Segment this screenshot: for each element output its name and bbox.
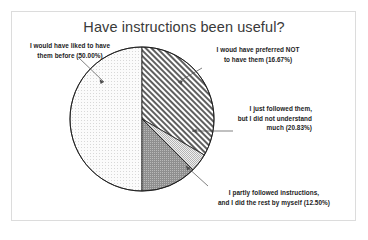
- pie-label-just-followed-not-understand: I just followed them, but I did not unde…: [222, 104, 312, 133]
- pie-label-line: much (20.83%): [222, 123, 312, 133]
- pie-label-line: I would have liked to have: [14, 41, 126, 51]
- pie-label-line: I woud have preferred NOT: [206, 45, 310, 55]
- pie-label-preferred-not-to-have: I woud have preferred NOT to have them (…: [206, 45, 310, 64]
- pie-slice-would-have-liked-before: [70, 47, 142, 191]
- pie-label-partly-followed-rest-myself: I partly followed instructions, and I di…: [196, 188, 352, 207]
- pie-label-line: but I did not understand: [222, 114, 312, 124]
- pie-label-line: and I did the rest by myself (12.50%): [196, 198, 352, 208]
- pie-label-line: them before (50.00%): [14, 51, 126, 61]
- pie-label-line: I just followed them,: [222, 104, 312, 114]
- pie-label-line: I partly followed instructions,: [196, 188, 352, 198]
- pie-label-would-have-liked-before: I would have liked to have them before (…: [14, 41, 126, 60]
- pie-label-line: to have them (16.67%): [206, 55, 310, 65]
- leader-line-partly-followed-rest-myself: [186, 166, 208, 186]
